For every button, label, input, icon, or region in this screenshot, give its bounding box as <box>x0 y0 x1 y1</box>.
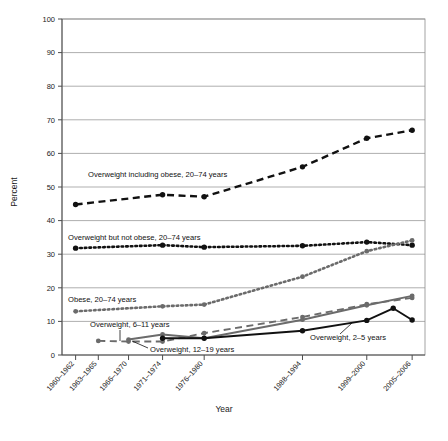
y-tick-label-70: 70 <box>47 116 55 125</box>
y-tick-label-0: 0 <box>51 351 55 360</box>
data-point-0-3 <box>300 164 305 169</box>
data-point-5-0 <box>160 336 165 341</box>
data-point-0-4 <box>364 136 369 141</box>
series-label-overweight_including_obese: Overweight including obese, 20–74 years <box>88 170 228 179</box>
data-point-4-5 <box>410 293 415 298</box>
chart-canvas: 0102030405060708090100 1960–19621963–196… <box>0 0 448 441</box>
data-point-0-0 <box>73 202 78 207</box>
data-point-1-5 <box>409 242 414 247</box>
y-tick-label-50: 50 <box>47 183 55 192</box>
data-point-4-3 <box>300 317 305 322</box>
data-point-1-2 <box>201 244 206 249</box>
data-point-5-3 <box>364 318 369 323</box>
data-point-0-5 <box>409 128 414 133</box>
data-point-0-2 <box>201 194 206 199</box>
y-tick-label-40: 40 <box>47 216 55 225</box>
data-point-4-4 <box>364 303 369 308</box>
data-point-5-2 <box>300 328 305 333</box>
data-point-5-5 <box>409 317 414 322</box>
data-point-1-0 <box>73 245 78 250</box>
data-point-2-4 <box>364 249 369 254</box>
y-tick-label-30: 30 <box>47 250 55 259</box>
obesity-trend-chart: 0102030405060708090100 1960–19621963–196… <box>0 0 448 441</box>
data-point-4-0 <box>126 337 131 342</box>
data-point-2-2 <box>202 302 207 307</box>
data-point-3-0 <box>96 338 101 343</box>
y-axis-title: Percent <box>9 177 19 207</box>
x-axis-title: Year <box>215 404 232 414</box>
data-point-2-1 <box>160 304 165 309</box>
series-label-overweight_not_obese: Overweight but not obese, 20–74 years <box>68 233 201 242</box>
y-tick-label-100: 100 <box>42 15 55 24</box>
data-point-1-1 <box>160 242 165 247</box>
data-point-0-1 <box>160 192 165 197</box>
y-tick-label-10: 10 <box>47 317 55 326</box>
data-point-5-1 <box>201 336 206 341</box>
data-point-2-5 <box>410 238 415 243</box>
series-label-obese_adults: Obese, 20–74 years <box>68 295 137 304</box>
data-point-1-3 <box>300 243 305 248</box>
y-tick-label-80: 80 <box>47 82 55 91</box>
data-point-3-3 <box>202 331 207 336</box>
y-tick-label-90: 90 <box>47 48 55 57</box>
series-label-overweight_2_5: Overweight, 2–5 years <box>310 333 386 342</box>
series-label-overweight_6_11: Overweight, 6–11 years <box>90 320 170 329</box>
y-tick-label-60: 60 <box>47 149 55 158</box>
data-point-1-4 <box>364 239 369 244</box>
data-point-2-3 <box>300 274 305 279</box>
data-point-2-0 <box>73 309 78 314</box>
data-point-5-4 <box>391 306 396 311</box>
series-label-overweight_12_19: Overweight, 12–19 years <box>150 345 235 354</box>
y-tick-label-20: 20 <box>47 284 55 293</box>
